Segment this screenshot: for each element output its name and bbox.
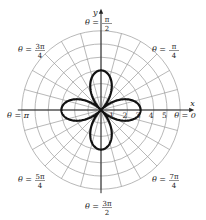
angle-label: θ =7π4	[152, 173, 179, 191]
angle-label: θ = π	[7, 111, 30, 120]
angle-label: θ =5π4	[18, 173, 45, 191]
svg-text:θ = π: θ = π	[7, 111, 30, 120]
radius-tick-label: 1	[109, 111, 114, 120]
svg-text:θ =: θ =	[18, 175, 32, 184]
svg-text:θ =: θ =	[152, 175, 166, 184]
radius-tick-label: 4	[149, 111, 154, 120]
polar-plot: 12345 θ = 0θ =π4θ =π2θ =3π4θ = πθ =5π4θ …	[0, 0, 206, 220]
angle-label: θ = 0	[174, 111, 196, 120]
svg-text:θ =: θ =	[18, 45, 32, 54]
svg-text:θ =: θ =	[85, 202, 99, 211]
svg-text:4: 4	[172, 182, 177, 190]
svg-text:4: 4	[38, 182, 43, 190]
svg-text:θ = 0: θ = 0	[174, 111, 196, 120]
radius-tick-labels: 12345	[109, 111, 167, 120]
angle-label: θ =π2	[85, 16, 112, 34]
x-axis-label: x	[190, 99, 195, 108]
svg-text:2: 2	[105, 25, 109, 33]
svg-text:2: 2	[105, 209, 109, 217]
svg-text:4: 4	[38, 52, 43, 60]
svg-text:π: π	[105, 16, 110, 24]
svg-text:π: π	[172, 43, 177, 51]
svg-text:θ =: θ =	[85, 18, 99, 27]
svg-text:3π: 3π	[35, 43, 44, 51]
svg-text:θ =: θ =	[152, 45, 166, 54]
angle-label: θ =3π4	[18, 43, 45, 61]
svg-text:5π: 5π	[35, 173, 44, 181]
angle-label: θ =π4	[152, 43, 179, 61]
radius-tick-label: 3	[136, 111, 141, 120]
svg-text:7π: 7π	[169, 173, 178, 181]
svg-text:3π: 3π	[102, 200, 111, 208]
svg-text:4: 4	[172, 52, 177, 60]
angle-label: θ =3π2	[85, 200, 112, 218]
y-axis-label: y	[92, 8, 98, 17]
radius-tick-label: 2	[122, 111, 127, 120]
y-axis-arrow-icon	[99, 9, 103, 14]
radius-tick-label: 5	[162, 111, 167, 120]
